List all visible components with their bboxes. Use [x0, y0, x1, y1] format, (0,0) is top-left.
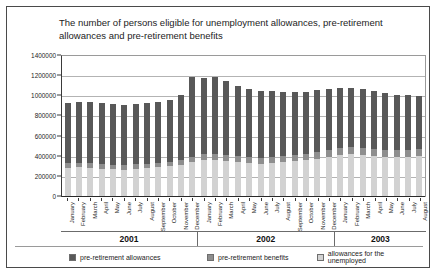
stacked-bar[interactable] [269, 91, 275, 197]
bar-series-container [62, 56, 425, 197]
bar-segment [416, 96, 422, 149]
stacked-bar[interactable] [371, 91, 377, 197]
stacked-bar[interactable] [189, 77, 195, 197]
bar-segment [178, 165, 184, 197]
chart-legend: pre-retirement allowancespre-retirement … [17, 250, 421, 264]
bar-segment [360, 89, 366, 147]
bar-segment [87, 168, 93, 197]
stacked-bar[interactable] [405, 95, 411, 197]
year-band: 200120022003 [61, 232, 426, 246]
bar-segment [212, 77, 218, 153]
stacked-bar[interactable] [223, 81, 229, 197]
y-axis-tick-label: 600000 [35, 132, 56, 139]
stacked-bar[interactable] [360, 89, 366, 197]
x-axis-tick-mark [226, 198, 227, 201]
stacked-bar[interactable] [280, 92, 286, 197]
x-axis-tick-mark [397, 198, 398, 201]
bar-segment [292, 92, 298, 155]
bar-segment [189, 77, 195, 157]
bar-segment [87, 102, 93, 163]
year-group-label: 2002 [198, 232, 335, 246]
stacked-bar[interactable] [292, 92, 298, 197]
bar-segment [110, 104, 116, 165]
stacked-bar[interactable] [178, 95, 184, 197]
bar-segment [314, 90, 320, 152]
stacked-bar[interactable] [121, 105, 127, 197]
stacked-bar[interactable] [326, 89, 332, 197]
bar-slot [402, 56, 413, 197]
bar-slot [278, 56, 289, 197]
stacked-bar[interactable] [303, 92, 309, 197]
legend-swatch [69, 254, 76, 261]
stacked-bar[interactable] [314, 90, 320, 197]
chart-title: The number of persons eligible for unemp… [59, 17, 419, 42]
legend-item[interactable]: pre-retirement allowances [69, 254, 161, 261]
bar-segment [371, 149, 377, 156]
bar-slot [323, 56, 334, 197]
bar-segment [348, 147, 354, 154]
bar-slot [414, 56, 425, 197]
stacked-bar[interactable] [133, 104, 139, 197]
stacked-bar[interactable] [87, 102, 93, 197]
bar-segment [337, 148, 343, 155]
stacked-bar[interactable] [76, 102, 82, 197]
bar-segment [394, 157, 400, 197]
bar-slot [334, 56, 345, 197]
stacked-bar[interactable] [394, 95, 400, 197]
stacked-bar[interactable] [144, 103, 150, 197]
stacked-bar[interactable] [348, 88, 354, 197]
y-axis-tick-label: 200000 [35, 172, 56, 179]
stacked-bar[interactable] [167, 100, 173, 197]
stacked-bar[interactable] [212, 77, 218, 197]
bar-segment [280, 162, 286, 197]
bar-segment [348, 154, 354, 197]
bar-slot [73, 56, 84, 197]
x-axis-tick-mark [192, 198, 193, 201]
stacked-bar[interactable] [99, 103, 105, 197]
y-axis-tick-label: 1000000 [31, 92, 56, 99]
bar-segment [326, 150, 332, 157]
bar-segment [167, 100, 173, 162]
legend-item[interactable]: allowances for the unemployed [317, 250, 421, 264]
stacked-bar[interactable] [65, 103, 71, 197]
x-axis-tick-mark [318, 198, 319, 201]
bar-segment [223, 161, 229, 197]
stacked-bar[interactable] [246, 89, 252, 197]
bar-slot [153, 56, 164, 197]
bar-slot [119, 56, 130, 197]
x-axis-tick-mark [352, 198, 353, 201]
bar-slot [300, 56, 311, 197]
stacked-bar[interactable] [258, 91, 264, 197]
bar-segment [65, 103, 71, 163]
x-axis-tick-mark [386, 198, 387, 201]
bar-segment [326, 157, 332, 197]
stacked-bar[interactable] [337, 88, 343, 197]
bar-slot [107, 56, 118, 197]
x-axis-tick-mark [238, 198, 239, 201]
bar-slot [221, 56, 232, 197]
stacked-bar[interactable] [416, 96, 422, 197]
bar-slot [312, 56, 323, 197]
stacked-bar[interactable] [155, 102, 161, 197]
x-axis-tick-mark [112, 198, 113, 201]
stacked-bar[interactable] [235, 86, 241, 197]
x-axis-tick-mark [101, 198, 102, 201]
stacked-bar[interactable] [110, 104, 116, 197]
x-axis-tick-label: August [422, 202, 428, 221]
bar-segment [326, 89, 332, 150]
legend-item[interactable]: pre-retirement benefits [207, 254, 288, 261]
bar-segment [65, 168, 71, 197]
bar-segment [189, 162, 195, 197]
x-axis-tick-mark [158, 198, 159, 201]
bar-segment [405, 157, 411, 197]
y-axis-tick-label: 800000 [35, 112, 56, 119]
x-axis-tick-mark [261, 198, 262, 201]
bar-slot [175, 56, 186, 197]
bar-segment [223, 81, 229, 155]
stacked-bar[interactable] [201, 78, 207, 197]
bar-segment [303, 92, 309, 154]
stacked-bar[interactable] [382, 93, 388, 197]
bar-slot [255, 56, 266, 197]
legend-swatch [207, 254, 214, 261]
bar-segment [348, 88, 354, 147]
